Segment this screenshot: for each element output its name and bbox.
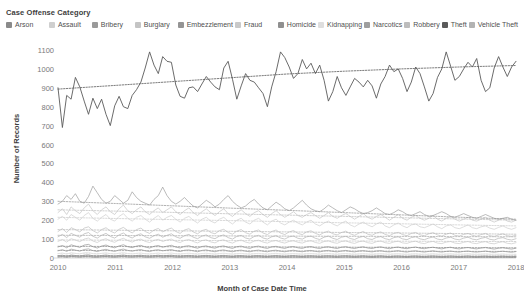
legend-item-arson[interactable]: Arson: [6, 20, 47, 30]
legend-item-bribery[interactable]: Bribery: [92, 20, 133, 30]
legend-item-label: Robbery: [413, 20, 439, 30]
legend-item-fraud[interactable]: Fraud: [235, 20, 276, 30]
legend-swatch-icon: [235, 22, 241, 28]
legend: Case Offense Category ArsonAssaultBriber…: [6, 8, 518, 30]
legend-item-label: Burglary: [144, 20, 170, 30]
legend-swatch-icon: [404, 22, 410, 28]
legend-item-label: Kidnapping: [327, 20, 362, 30]
plot-area: Number of Records 0100200300400500600700…: [0, 44, 524, 303]
legend-item-embezzlement[interactable]: Embezzlement: [178, 20, 233, 30]
legend-item-label: Fraud: [244, 20, 262, 30]
legend-item-label: Vehicle Theft: [478, 20, 518, 30]
legend-item-homicide[interactable]: Homicide: [278, 20, 316, 30]
crime-trend-chart: Case Offense Category ArsonAssaultBriber…: [0, 0, 524, 303]
legend-item-narcotics[interactable]: Narcotics: [364, 20, 402, 30]
trendline-fraud: [58, 240, 516, 242]
series-line-narcotics: [58, 186, 516, 220]
legend-item-burglary[interactable]: Burglary: [135, 20, 176, 30]
legend-swatch-icon: [178, 22, 184, 28]
series-line-theft: [58, 52, 516, 128]
legend-swatch-icon: [6, 22, 12, 28]
legend-item-label: Embezzlement: [187, 20, 233, 30]
legend-item-label: Arson: [15, 20, 33, 30]
legend-title: Case Offense Category: [6, 8, 518, 17]
legend-item-label: Theft: [451, 20, 467, 30]
legend-swatch-icon: [364, 22, 370, 28]
series-canvas: [0, 44, 524, 276]
legend-swatch-icon: [318, 22, 324, 28]
legend-item-label: Assault: [58, 20, 81, 30]
series-line-fraud: [58, 238, 516, 244]
x-axis-title: Month of Case Date Time: [0, 284, 524, 293]
legend-item-label: Homicide: [287, 20, 316, 30]
legend-swatch-icon: [278, 22, 284, 28]
trendline-narcotics: [58, 201, 516, 219]
legend-items: ArsonAssaultBriberyBurglaryEmbezzlementF…: [6, 20, 518, 30]
legend-swatch-icon: [442, 22, 448, 28]
legend-swatch-icon: [49, 22, 55, 28]
legend-item-assault[interactable]: Assault: [49, 20, 90, 30]
legend-item-vehicle-theft[interactable]: Vehicle Theft: [469, 20, 518, 30]
legend-swatch-icon: [469, 22, 475, 28]
series-line-assault: [58, 213, 516, 230]
legend-swatch-icon: [135, 22, 141, 28]
series-line-burglary: [58, 204, 516, 222]
legend-item-kidnapping[interactable]: Kidnapping: [318, 20, 362, 30]
legend-item-label: Bribery: [101, 20, 123, 30]
trendline-theft: [58, 66, 516, 90]
legend-item-robbery[interactable]: Robbery: [404, 20, 439, 30]
legend-item-label: Narcotics: [373, 20, 402, 30]
legend-swatch-icon: [92, 22, 98, 28]
trendline-vehicle-theft: [58, 235, 516, 237]
legend-item-theft[interactable]: Theft: [442, 20, 467, 30]
